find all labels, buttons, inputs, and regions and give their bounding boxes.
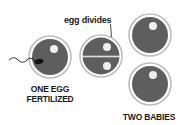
nucleus-icon-bottom — [103, 62, 111, 70]
fertilized-egg — [9, 36, 71, 78]
twins-diagram: egg divides ONE EGG FERTILIZED TWO BABIE… — [0, 0, 186, 125]
one-egg-label: ONE EGG — [31, 84, 70, 94]
egg-divides-label: egg divides — [64, 15, 112, 25]
embryo-bottom-icon — [132, 66, 168, 102]
nucleus-icon-top — [103, 43, 111, 51]
two-embryos — [129, 14, 171, 105]
fertilized-label: FERTILIZED — [26, 94, 73, 104]
embryo-top-icon — [132, 17, 168, 53]
egg-icon — [32, 39, 68, 75]
two-babies-label: TWO BABIES — [123, 112, 176, 122]
nucleus-icon — [149, 22, 157, 30]
nucleus-icon — [149, 71, 157, 79]
nucleus-icon — [50, 45, 58, 53]
dividing-egg: egg divides — [64, 15, 122, 77]
annotation-pointer-line — [111, 24, 112, 37]
